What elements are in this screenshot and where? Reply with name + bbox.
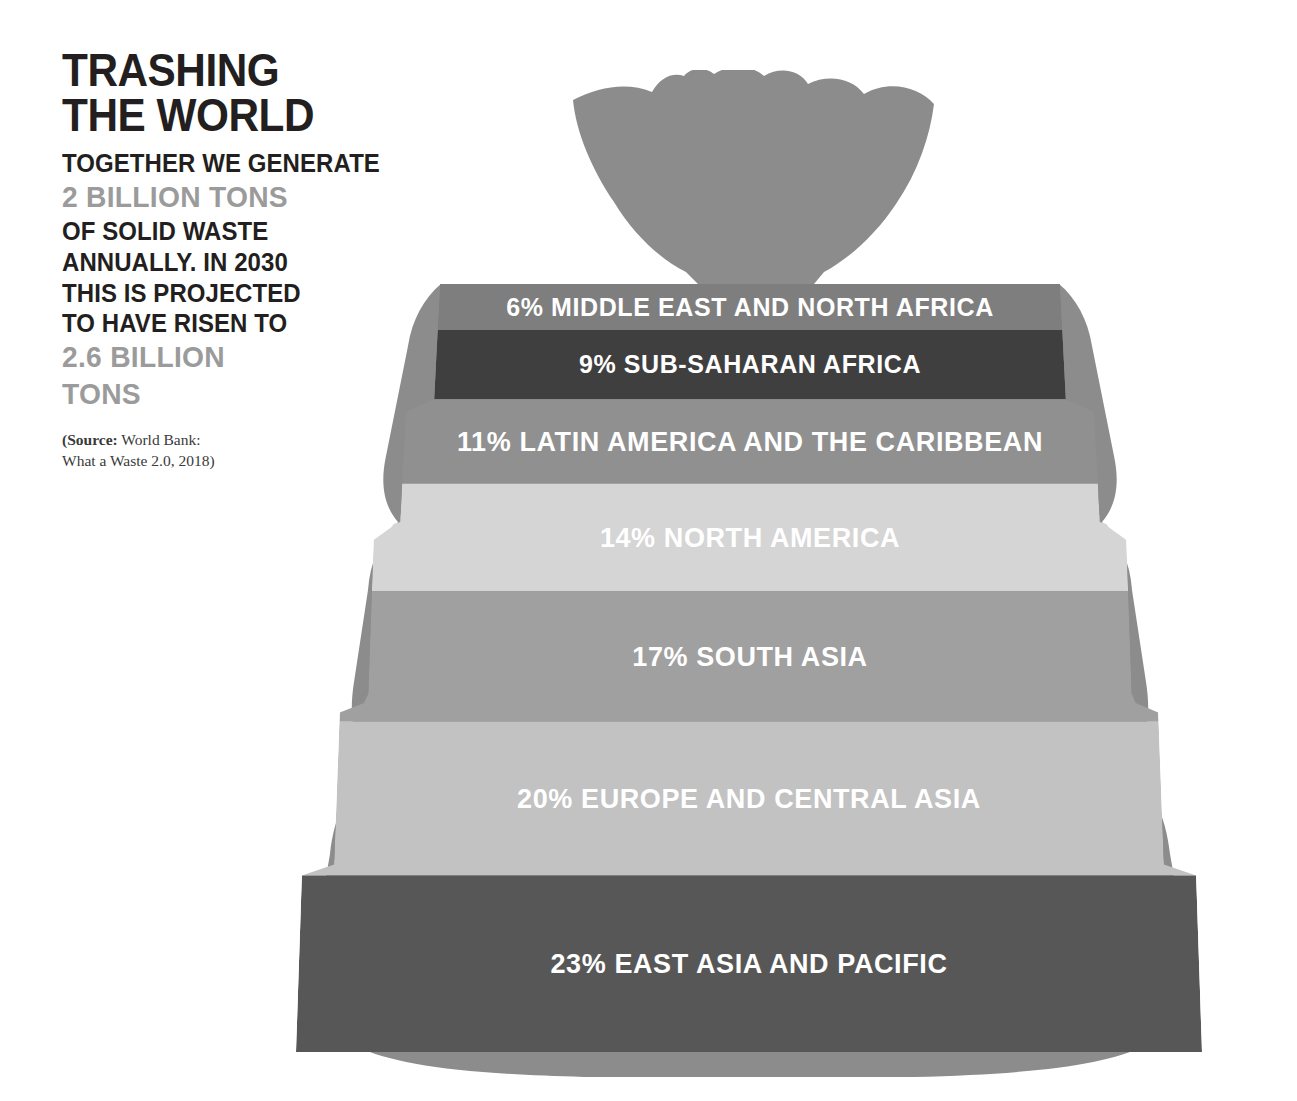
band-label-north-america: 14% NORTH AMERICA [600,523,900,553]
band-label-europe-and-central-asia: 20% EUROPE AND CENTRAL ASIA [517,784,981,814]
source-label: (Source: [62,431,118,448]
trash-bag-svg: 6% MIDDLE EAST AND NORTH AFRICA9% SUB-SA… [228,70,1268,1080]
band-label-middle-east-and-north-africa: 6% MIDDLE EAST AND NORTH AFRICA [506,293,994,321]
trash-bag-stacked-chart: 6% MIDDLE EAST AND NORTH AFRICA9% SUB-SA… [228,70,1268,1080]
band-label-south-asia: 17% SOUTH ASIA [632,642,867,672]
band-label-sub-saharan-africa: 9% SUB-SAHARAN AFRICA [579,350,921,378]
band-label-east-asia-and-pacific: 23% EAST ASIA AND PACIFIC [550,949,947,979]
trash-bag-knot [573,70,934,284]
band-label-latin-america-and-the-caribbean: 11% LATIN AMERICA AND THE CARIBBEAN [457,427,1043,457]
source-publisher: World Bank: [118,431,201,448]
